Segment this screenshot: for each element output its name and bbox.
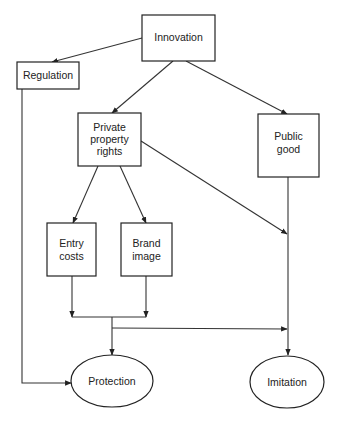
innovation-diagram: Innovation Regulation Private property r… xyxy=(0,0,339,421)
public-good-label-2: good xyxy=(277,143,301,155)
edge-innovation-public-good xyxy=(186,61,287,114)
node-public-good: Public good xyxy=(258,114,319,177)
edge-innovation-regulation xyxy=(52,38,142,62)
node-entry-costs: Entry costs xyxy=(47,223,96,276)
innovation-label: Innovation xyxy=(154,31,203,43)
edges xyxy=(22,38,288,383)
public-good-label-1: Public xyxy=(274,130,303,142)
entry-costs-label-2: costs xyxy=(59,250,84,262)
edge-merge-imitation xyxy=(112,328,287,329)
brand-image-label-2: image xyxy=(132,250,161,262)
node-innovation: Innovation xyxy=(142,15,215,61)
node-regulation: Regulation xyxy=(17,62,79,89)
regulation-label: Regulation xyxy=(23,69,73,81)
entry-costs-label-1: Entry xyxy=(59,237,84,249)
private-property-label-1: Private xyxy=(93,121,126,133)
node-private-property-rights: Private property rights xyxy=(78,113,141,166)
node-protection: Protection xyxy=(71,355,153,407)
node-brand-image: Brand image xyxy=(121,223,172,276)
edge-private-entry xyxy=(73,166,98,223)
private-property-label-2: property xyxy=(90,133,129,145)
node-imitation: Imitation xyxy=(250,356,324,408)
edge-private-brand xyxy=(120,166,146,223)
imitation-label: Imitation xyxy=(267,376,307,388)
protection-label: Protection xyxy=(88,375,135,387)
brand-image-label-1: Brand xyxy=(132,237,160,249)
private-property-label-3: rights xyxy=(97,145,123,157)
edge-innovation-private-property xyxy=(112,61,173,113)
